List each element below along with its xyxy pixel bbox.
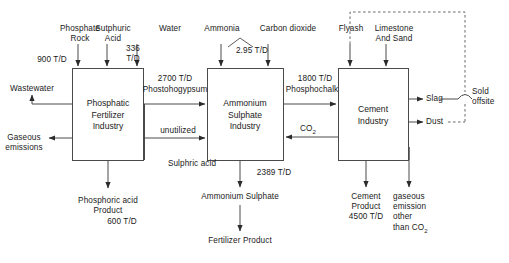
label-ammonia: Ammonia [204, 24, 239, 34]
label-phosphate-rock-rate: 900 T/D [37, 55, 67, 65]
label-co2-flow: CO2 [300, 124, 316, 137]
label-limestone-and-sand: Limestone And Sand [375, 24, 414, 44]
co2-subscript: 2 [313, 129, 316, 135]
label-sulphuric-acid-rate: 336 T/D [126, 44, 140, 64]
label-phosphochalk-rate: 1800 T/D [298, 74, 332, 84]
label-phosphochalk: Phosphochalk [286, 85, 339, 95]
gaseous-other-subscript: 2 [424, 227, 427, 233]
label-ammonium-sulphate-rate: 2389 T/D [257, 168, 291, 178]
label-cement-product: Cement Product 4500 T/D [349, 192, 383, 223]
gaseous-other-text: gaseous emission other than CO [393, 192, 426, 232]
box-label-cement-industry: Cement Industry [358, 104, 389, 127]
label-gaseous-emissions: Gaseous emissions [5, 133, 42, 153]
label-phostohogypsum-rate: 2700 T/D [158, 74, 192, 84]
label-fertilizer-product: Fertilizer Product [208, 236, 272, 246]
label-slag: Slag [426, 94, 443, 104]
label-sulphuric-acid: Sutphuric Acid [95, 24, 131, 44]
label-phosphoric-acid-product: Phosphoric acid Product [78, 196, 138, 216]
label-flyash: Flyash [339, 24, 364, 34]
label-gaseous-emission-other: gaseous emission other than CO2 [393, 192, 428, 235]
label-water: Water [159, 24, 181, 34]
label-ammonium-sulphate: Ammonium Sulphate [201, 192, 279, 202]
label-phosphoric-acid-rate: 600 T/D [107, 217, 137, 227]
label-sulphric-acid: Sulphric acid [168, 159, 216, 169]
arrow-wastewater-output [32, 95, 72, 104]
label-dust: Dust [426, 117, 443, 127]
label-wastewater: Wastewater [10, 84, 54, 94]
box-label-phosphatic-fertilizer-industry: Phosphatic Fertilizer Industry [87, 98, 130, 133]
box-label-ammonium-sulphate-industry: Ammonium Sulphate Industry [223, 98, 266, 133]
slag-line-hop-arc [458, 95, 472, 100]
label-carbon-dioxide: Carbon dioxide [260, 24, 316, 34]
label-phosphate-rock: Phosphate Rock [60, 24, 100, 44]
label-unutilized: unutilized [160, 126, 196, 136]
co2-text: CO [300, 124, 312, 133]
label-ammonia-rate: 2.95 T/D [236, 46, 268, 56]
process-flow-diagram: Phosphate Rock 900 T/D Sutphuric Acid 33… [0, 0, 509, 263]
label-sold-offsite: Sold offsite [472, 87, 494, 107]
label-phostohogypsum: Phostohogypsum [143, 85, 208, 95]
